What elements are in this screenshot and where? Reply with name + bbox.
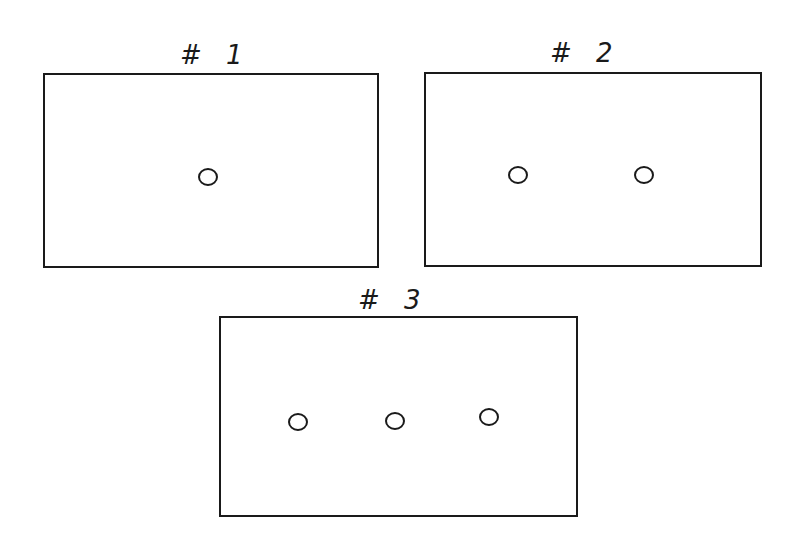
panel-3-label: # 3 <box>358 287 429 313</box>
circle-icon <box>508 166 528 184</box>
panel-1-label: # 1 <box>180 42 251 68</box>
circle-icon <box>198 168 218 186</box>
circle-icon <box>479 408 499 426</box>
circle-icon <box>385 412 405 430</box>
panel-2-rectangle <box>424 72 762 267</box>
panel-2-label: # 2 <box>550 40 621 66</box>
circle-icon <box>634 166 654 184</box>
circle-icon <box>288 413 308 431</box>
